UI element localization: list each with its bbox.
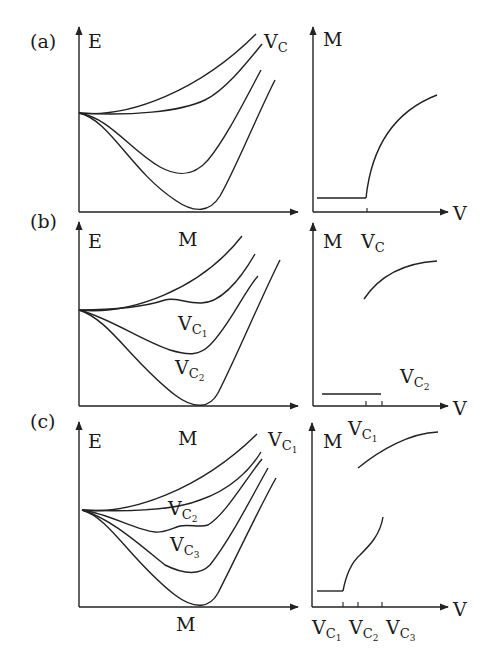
magnetization-upper-branch [364, 261, 437, 299]
order-parameter-label-top: M [178, 427, 197, 449]
tick-label-vc1: VC1 [311, 616, 341, 643]
magnetization-axis-label: M [323, 230, 342, 252]
energy-curve-1 [79, 34, 256, 114]
magnetization-axis-label: M [323, 28, 342, 50]
curve-label-vc2: VC2 [174, 356, 204, 383]
landau-energy-magnetization-figure: (a) E VC M V (b) E M [0, 0, 496, 670]
tick-label-vc2: VC2 [348, 616, 378, 643]
top-label-vc1: VC1 [347, 417, 377, 444]
panel-c-energy-plot: E M M VC1 VC2 VC3 [79, 422, 298, 635]
curve-label-vc: VC [263, 30, 288, 55]
panel-a: (a) E VC M V [30, 27, 467, 224]
panel-b-magnetization-plot: M VC VC2 V [313, 223, 467, 419]
voltage-axis-label: V [452, 397, 467, 419]
panel-a-magnetization-plot: M V [313, 27, 467, 224]
curve-label-vc2: VC2 [167, 497, 197, 524]
top-label-vc: VC [360, 230, 385, 255]
energy-curve-1 [79, 236, 242, 311]
energy-curve-4 [82, 468, 268, 573]
tick-label-vc3: VC3 [385, 616, 416, 643]
energy-curve-3 [82, 459, 262, 532]
curve-label-vc3: VC3 [169, 533, 200, 560]
magnetization-continuous-rise [343, 517, 383, 591]
panel-a-label: (a) [30, 30, 56, 52]
panel-b: (b) E M VC1 VC2 M VC VC2 V [30, 210, 467, 419]
panel-a-energy-plot: E VC [79, 27, 298, 212]
side-label-vc2: VC2 [399, 365, 429, 392]
panel-b-energy-plot: E M VC1 VC2 [79, 222, 298, 406]
voltage-axis-label: V [452, 202, 467, 224]
curve-label-vc1: VC1 [267, 428, 297, 455]
panel-c: (c) E M M VC1 VC2 VC3 M VC1 V [30, 410, 467, 643]
energy-curve-2 [79, 254, 255, 310]
magnetization-axis-label: M [323, 430, 342, 452]
energy-axis-label: E [88, 30, 102, 52]
order-parameter-label: M [178, 228, 197, 250]
panel-c-magnetization-plot: M VC1 V VC1 VC2 VC3 [311, 417, 467, 643]
panel-b-label: (b) [30, 210, 57, 232]
tick-labels: VC1 VC2 VC3 [311, 616, 416, 643]
energy-curve-3 [79, 70, 261, 174]
magnetization-rise [366, 95, 437, 198]
voltage-axis-label: V [452, 598, 467, 620]
energy-axis-label: E [88, 430, 102, 452]
order-parameter-label-bottom: M [176, 613, 195, 635]
energy-axis-label: E [88, 230, 102, 252]
panel-c-label: (c) [30, 410, 55, 432]
curve-label-vc1: VC1 [177, 312, 207, 339]
